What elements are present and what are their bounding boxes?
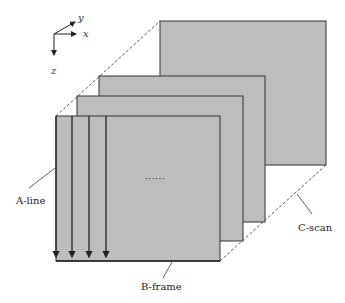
oct-scan-diagram: y x z ······ A-line B-frame C-scan <box>0 0 345 303</box>
axis-x-label: x <box>83 28 89 39</box>
ellipsis-indicator: ······ <box>145 174 165 184</box>
front-plane <box>56 116 220 261</box>
axis-y-label: y <box>77 12 84 23</box>
axes-icon: y x z <box>50 12 89 76</box>
a-line-label: A-line <box>15 195 45 206</box>
c-scan-label: C-scan <box>298 222 333 233</box>
b-frame-label: B-frame <box>141 281 182 292</box>
axis-z-label: z <box>50 65 57 76</box>
